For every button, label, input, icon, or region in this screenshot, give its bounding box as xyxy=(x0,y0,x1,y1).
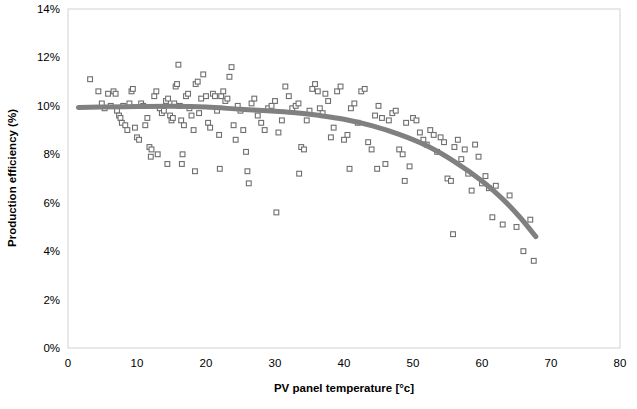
scatter-chart: 0%2%4%6%8%10%12%14% 01020304050607080 PV… xyxy=(0,0,637,409)
scatter-point xyxy=(373,113,378,118)
x-tick-label: 70 xyxy=(545,357,558,369)
scatter-point xyxy=(145,116,150,121)
scatter-point xyxy=(313,82,318,87)
scatter-point xyxy=(231,123,236,128)
scatter-point xyxy=(259,120,264,125)
scatter-point xyxy=(431,133,436,138)
y-axis-title: Production efficiency (%) xyxy=(6,109,18,247)
scatter-point xyxy=(255,113,260,118)
scatter-point xyxy=(165,162,170,167)
scatter-point xyxy=(376,103,381,108)
scatter-point xyxy=(175,82,180,87)
scatter-point xyxy=(221,89,226,94)
scatter-point xyxy=(493,183,498,188)
scatter-point xyxy=(276,130,281,135)
scatter-point xyxy=(280,118,285,123)
scatter-point xyxy=(217,133,222,138)
x-tick-label: 10 xyxy=(131,357,144,369)
scatter-point xyxy=(521,249,526,254)
scatter-point xyxy=(455,137,460,142)
scatter-point xyxy=(331,125,336,130)
scatter-point xyxy=(225,96,230,101)
scatter-point xyxy=(149,147,154,152)
scatter-point xyxy=(352,101,357,106)
scatter-point xyxy=(500,222,505,227)
x-tick-label: 80 xyxy=(614,357,627,369)
scatter-point xyxy=(383,162,388,167)
scatter-point xyxy=(269,103,274,108)
scatter-point xyxy=(189,113,194,118)
scatter-point xyxy=(310,87,315,92)
y-tick-label: 8% xyxy=(43,148,60,160)
scatter-point xyxy=(204,94,209,99)
scatter-point xyxy=(199,96,204,101)
scatter-point xyxy=(125,128,130,133)
scatter-point xyxy=(154,89,159,94)
x-axis-title: PV panel temperature [°c] xyxy=(274,382,414,394)
scatter-point xyxy=(166,96,171,101)
scatter-point xyxy=(490,215,495,220)
scatter-point xyxy=(304,118,309,123)
scatter-point xyxy=(191,128,196,133)
scatter-point xyxy=(404,120,409,125)
scatter-point xyxy=(476,154,481,159)
x-tick-label: 40 xyxy=(338,357,351,369)
scatter-point xyxy=(400,152,405,157)
scatter-point xyxy=(442,140,447,145)
scatter-point xyxy=(148,154,153,159)
scatter-point xyxy=(418,130,423,135)
y-tick-label: 2% xyxy=(43,294,60,306)
scatter-point xyxy=(451,232,456,237)
scatter-point xyxy=(245,169,250,174)
scatter-point xyxy=(246,181,251,186)
scatter-point xyxy=(229,65,234,70)
scatter-point xyxy=(366,140,371,145)
scatter-point xyxy=(206,120,211,125)
scatter-point xyxy=(438,135,443,140)
scatter-point xyxy=(219,94,224,99)
scatter-point xyxy=(143,123,148,128)
scatter-point xyxy=(375,166,380,171)
scatter-point xyxy=(118,116,123,121)
scatter-point xyxy=(195,79,200,84)
scatter-point xyxy=(208,125,213,130)
scatter-point xyxy=(397,147,402,152)
scatter-point xyxy=(449,179,454,184)
scatter-point xyxy=(241,128,246,133)
scatter-point xyxy=(345,133,350,138)
scatter-point xyxy=(347,166,352,171)
scatter-point xyxy=(113,91,118,96)
scatter-point xyxy=(249,101,254,106)
scatter-point xyxy=(473,142,478,147)
scatter-point xyxy=(483,174,488,179)
scatter-point xyxy=(179,162,184,167)
x-tick-label: 0 xyxy=(65,357,71,369)
scatter-point xyxy=(179,118,184,123)
scatter-point xyxy=(176,62,181,67)
scatter-point xyxy=(170,116,175,121)
scatter-point xyxy=(335,89,340,94)
scatter-point xyxy=(362,87,367,92)
scatter-point xyxy=(274,210,279,215)
y-tick-label: 10% xyxy=(37,100,60,112)
scatter-point xyxy=(182,123,187,128)
scatter-point xyxy=(469,188,474,193)
scatter-point xyxy=(197,111,202,116)
y-tick-label: 14% xyxy=(37,3,60,15)
scatter-point xyxy=(507,193,512,198)
y-tick-label: 0% xyxy=(43,342,60,354)
scatter-point xyxy=(328,135,333,140)
scatter-point xyxy=(106,91,111,96)
x-tick-label: 30 xyxy=(269,357,282,369)
scatter-point xyxy=(296,101,301,106)
scatter-point xyxy=(531,258,536,263)
x-tick-label: 50 xyxy=(407,357,420,369)
scatter-point xyxy=(283,84,288,89)
y-tick-label: 12% xyxy=(37,51,60,63)
scatter-point xyxy=(233,137,238,142)
scatter-point xyxy=(428,128,433,133)
scatter-point xyxy=(402,179,407,184)
scatter-point xyxy=(96,89,101,94)
scatter-point xyxy=(217,166,222,171)
scatter-point xyxy=(338,84,343,89)
